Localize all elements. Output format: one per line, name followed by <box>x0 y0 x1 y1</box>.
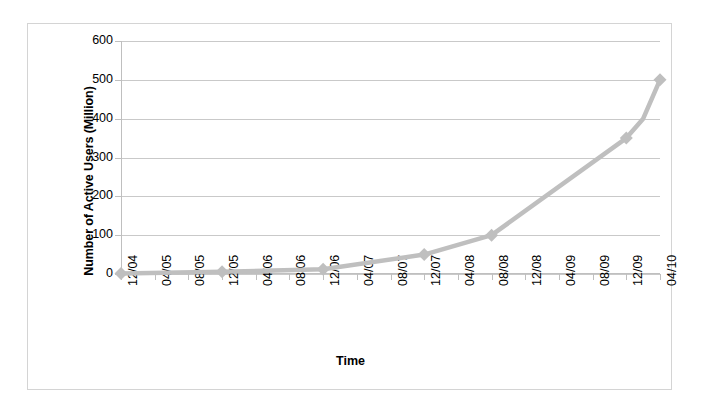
x-axis-tick-mark <box>559 274 560 280</box>
chart-figure: Number of Active Users (Million) 0100200… <box>0 0 706 408</box>
y-axis-tick-label: 400 <box>57 111 113 125</box>
data-point-marker <box>317 263 330 276</box>
y-axis-tick-label: 300 <box>57 150 113 164</box>
data-point-marker <box>418 248 431 261</box>
chart-plot-frame: Number of Active Users (Million) 0100200… <box>27 23 672 390</box>
series-polyline <box>121 80 660 274</box>
y-axis-tick-label: 100 <box>57 227 113 241</box>
x-axis-tick-mark <box>424 274 425 280</box>
y-axis-tick-label: 500 <box>57 72 113 86</box>
x-axis-tick-mark <box>525 274 526 280</box>
x-axis-title: Time <box>28 354 673 368</box>
x-axis-tick-mark <box>593 274 594 280</box>
data-series-line <box>121 41 660 274</box>
x-axis-tick-mark <box>256 274 257 280</box>
x-axis-tick-mark <box>357 274 358 280</box>
x-axis-tick-mark <box>188 274 189 280</box>
y-axis-tick-label: 600 <box>57 33 113 47</box>
y-axis-tick-label: 200 <box>57 188 113 202</box>
x-axis-tick-mark <box>660 274 661 280</box>
x-axis-tick-mark <box>289 274 290 280</box>
x-axis-tick-mark <box>492 274 493 280</box>
y-axis-tick-label: 0 <box>57 266 113 280</box>
x-axis-tick-label: 04/10 <box>665 255 679 286</box>
series-markers <box>115 73 667 280</box>
y-axis-tick-labels: 0100200300400500600 <box>45 41 113 274</box>
data-point-marker <box>654 73 667 86</box>
x-axis-tick-mark <box>626 274 627 280</box>
x-axis-tick-mark <box>458 274 459 280</box>
x-axis-tick-mark <box>391 274 392 280</box>
